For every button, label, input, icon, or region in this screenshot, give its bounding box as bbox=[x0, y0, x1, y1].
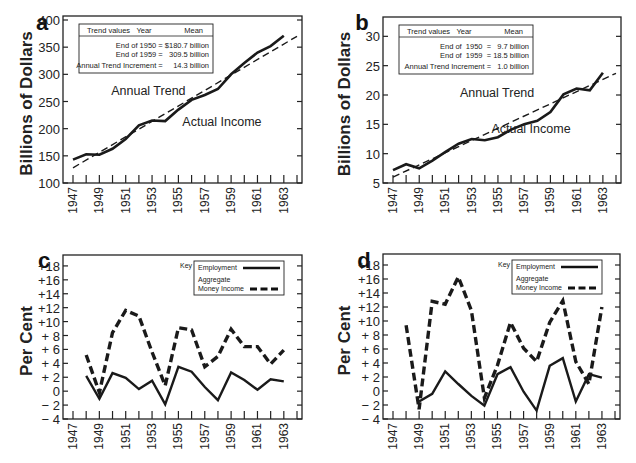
x-tick-label: 1953 bbox=[145, 187, 159, 214]
x-tick-label: 1961 bbox=[569, 423, 583, 450]
legend: KeyEmploymentAggregateMoney Income bbox=[180, 261, 284, 295]
figure: aBillions of Dollars10015020025030035040… bbox=[0, 0, 636, 463]
annotation-label: Annual Trend bbox=[460, 86, 534, 100]
x-tick-label: 1947 bbox=[66, 187, 80, 214]
y-tick-label: 150 bbox=[38, 149, 60, 164]
y-tick-label: − 4 bbox=[42, 412, 60, 427]
x-tick-label: 1957 bbox=[517, 423, 531, 450]
panel-c: cPer Cent− 4− 20+ 2+ 4+ 6+ 8+10+12+14+16… bbox=[17, 248, 302, 450]
y-tick-label: 0 bbox=[53, 384, 60, 399]
y-tick-label: +18 bbox=[358, 258, 380, 273]
y-tick-label: +14 bbox=[358, 286, 380, 301]
legend-label-aggregate: Aggregate bbox=[198, 276, 230, 284]
x-tick-label: 1955 bbox=[491, 187, 505, 214]
panel-b: bBillions of Dollars51015202530194719491… bbox=[335, 10, 621, 214]
x-tick-label: 1963 bbox=[277, 423, 291, 450]
x-tick-label: 1955 bbox=[171, 187, 185, 214]
x-tick-label: 1951 bbox=[438, 187, 452, 214]
y-axis-label: Billions of Dollars bbox=[335, 32, 354, 177]
y-tick-label: +10 bbox=[358, 314, 380, 329]
x-tick-label: 1959 bbox=[224, 187, 238, 214]
panel-a: aBillions of Dollars10015020025030035040… bbox=[17, 10, 302, 214]
x-tick-label: 1955 bbox=[490, 423, 504, 450]
x-tick-label: 1947 bbox=[386, 423, 400, 450]
x-tick-label: 1949 bbox=[92, 187, 106, 214]
y-tick-label: +14 bbox=[38, 287, 60, 302]
y-tick-label: +12 bbox=[358, 300, 380, 315]
y-tick-label: + 4 bbox=[42, 356, 60, 371]
y-tick-label: 250 bbox=[38, 95, 60, 110]
legend-key-label: Key bbox=[498, 261, 511, 269]
y-tick-label: 30 bbox=[366, 29, 380, 44]
x-tick-label: 1961 bbox=[570, 187, 584, 214]
y-tick-label: + 2 bbox=[362, 370, 380, 385]
legend-label-money-income: Money Income bbox=[198, 285, 244, 293]
series-aggregate-money-income bbox=[86, 310, 284, 392]
y-tick-label: +18 bbox=[38, 259, 60, 274]
y-tick-label: 15 bbox=[366, 117, 380, 132]
box-row: Annual Trend Increment = 14.3 billion bbox=[76, 61, 209, 70]
y-tick-label: − 4 bbox=[362, 412, 380, 427]
x-tick-label: 1951 bbox=[119, 187, 133, 214]
x-tick-label: 1947 bbox=[386, 187, 400, 214]
y-tick-label: + 2 bbox=[42, 370, 60, 385]
legend-label-aggregate: Aggregate bbox=[516, 275, 548, 283]
box-header: Year bbox=[456, 27, 472, 36]
annotation-label: Actual Income bbox=[182, 115, 261, 129]
box-header: Mean bbox=[184, 26, 203, 35]
x-tick-label: 1961 bbox=[250, 187, 264, 214]
box-header: Trend values bbox=[407, 27, 450, 36]
x-tick-label: 1963 bbox=[595, 423, 609, 450]
box-row: End of 1959 = 18.5 billion bbox=[440, 51, 529, 60]
x-tick-label: 1957 bbox=[198, 187, 212, 214]
y-tick-label: 200 bbox=[38, 122, 60, 137]
x-tick-label: 1953 bbox=[145, 423, 159, 450]
y-tick-label: 10 bbox=[366, 147, 380, 162]
x-tick-label: 1949 bbox=[412, 423, 426, 450]
legend-label-employment: Employment bbox=[198, 264, 237, 272]
x-tick-label: 1963 bbox=[277, 187, 291, 214]
y-tick-label: 300 bbox=[38, 67, 60, 82]
x-tick-label: 1947 bbox=[66, 423, 80, 450]
trend-values-box: Trend valuesYearMeanEnd of 1950 = $180.7… bbox=[76, 24, 213, 73]
y-axis-label: Per Cent bbox=[17, 306, 36, 376]
y-tick-label: 5 bbox=[373, 176, 380, 191]
y-tick-label: 0 bbox=[373, 384, 380, 399]
y-tick-label: +12 bbox=[38, 301, 60, 316]
box-row: End of 1950 = $180.7 billion bbox=[116, 41, 209, 50]
y-tick-label: + 6 bbox=[362, 342, 380, 357]
box-row: Annual Trend Increment = 1.0 billion bbox=[405, 62, 529, 71]
x-tick-label: 1949 bbox=[92, 423, 106, 450]
y-tick-label: +10 bbox=[38, 315, 60, 330]
legend-key-label: Key bbox=[180, 262, 193, 270]
x-tick-label: 1949 bbox=[412, 187, 426, 214]
x-tick-label: 1953 bbox=[465, 187, 479, 214]
legend-label-money-income: Money Income bbox=[516, 284, 562, 292]
y-tick-label: +16 bbox=[358, 272, 380, 287]
x-tick-label: 1959 bbox=[543, 423, 557, 450]
box-row: End of 1959 = 309.5 billion bbox=[116, 50, 209, 59]
y-tick-label: + 4 bbox=[362, 356, 380, 371]
y-tick-label: 350 bbox=[38, 40, 60, 55]
y-tick-label: − 2 bbox=[362, 398, 380, 413]
x-tick-label: 1957 bbox=[198, 423, 212, 450]
y-tick-label: − 2 bbox=[42, 398, 60, 413]
series-employment bbox=[86, 367, 284, 405]
box-header: Trend values bbox=[87, 26, 130, 35]
trend-values-box: Trend valuesYearMeanEnd of 1950 = 9.7 bi… bbox=[399, 25, 533, 74]
x-tick-label: 1951 bbox=[438, 423, 452, 450]
x-tick-label: 1957 bbox=[517, 187, 531, 214]
y-axis-label: Per Cent bbox=[335, 305, 354, 375]
x-tick-label: 1963 bbox=[596, 187, 610, 214]
x-tick-label: 1961 bbox=[250, 423, 264, 450]
box-row: End of 1950 = 9.7 billion bbox=[440, 42, 529, 51]
box-header: Mean bbox=[504, 27, 523, 36]
x-tick-label: 1955 bbox=[171, 423, 185, 450]
annotation-label: Annual Trend bbox=[111, 84, 185, 98]
y-tick-label: 25 bbox=[366, 59, 380, 74]
x-tick-label: 1951 bbox=[119, 423, 133, 450]
x-tick-label: 1959 bbox=[224, 423, 238, 450]
legend: KeyEmploymentAggregateMoney Income bbox=[498, 260, 602, 294]
x-tick-label: 1953 bbox=[464, 423, 478, 450]
y-tick-label: 400 bbox=[38, 13, 60, 28]
